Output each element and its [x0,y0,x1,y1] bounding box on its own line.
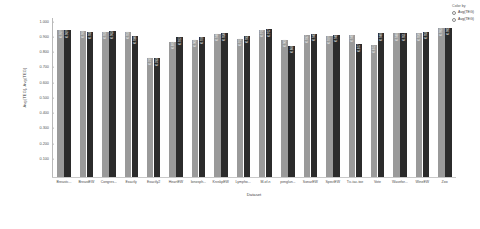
bar[interactable]: 0.950 [221,33,227,177]
bar-value-label: 0.963 [110,31,114,39]
bar-value-label: 0.937 [305,35,309,43]
bar[interactable]: 0.908 [281,40,287,178]
bar[interactable]: 0.922 [176,37,182,177]
bar-group[interactable]: 0.9290.941 [322,18,344,177]
bar[interactable]: 0.941 [333,35,339,178]
bar[interactable]: 0.971 [259,30,265,177]
x-tick-label: WineEW [411,180,433,184]
bar[interactable]: 0.963 [109,31,115,177]
bar-value-label: 0.941 [334,34,338,42]
bar-group[interactable]: 0.9710.977 [254,18,276,177]
bar-group[interactable]: 0.9500.958 [411,18,433,177]
bar[interactable]: 0.877 [356,44,362,177]
bar-groups: 0.9690.9690.9660.9580.9580.9630.9580.930… [53,18,456,177]
bar-group[interactable]: 0.9690.969 [53,18,75,177]
bar-value-label: 0.893 [171,42,175,50]
bar-group[interactable]: 0.9580.963 [98,18,120,177]
bar[interactable]: 0.985 [445,28,451,177]
bar-group[interactable]: 0.8720.948 [366,18,388,177]
bar-value-label: 0.933 [245,36,249,44]
y-axis-title: Avg(TEG), Avg(TEG) [4,0,44,175]
bar[interactable]: 0.913 [237,39,243,177]
legend-label-0: Avg(TEG) [458,11,474,15]
y-tick-label: 0.600 [39,81,52,85]
x-tick-label: Wavefor... [389,180,411,184]
y-tick-label: 0.200 [39,142,52,146]
bar[interactable]: 0.948 [393,33,399,177]
bar[interactable]: 0.872 [371,45,377,177]
bar[interactable]: 0.933 [244,36,250,177]
bar-value-label: 0.908 [283,39,287,47]
y-tick-label: 0.300 [39,126,52,130]
bar-group[interactable]: 0.9410.877 [344,18,366,177]
bar[interactable]: 0.929 [326,36,332,177]
bar-value-label: 0.866 [290,46,294,54]
bar[interactable]: 0.950 [416,33,422,177]
bar-value-label: 0.783 [155,58,159,66]
bar[interactable]: 0.966 [80,31,86,177]
bar[interactable]: 0.783 [154,58,160,177]
bar-value-label: 0.926 [200,37,204,45]
bar-group[interactable]: 0.9480.951 [389,18,411,177]
x-tick-label: KrvskpEW [210,180,232,184]
bar[interactable]: 0.948 [378,33,384,177]
bar-group[interactable]: 0.9080.926 [187,18,209,177]
bar-value-label: 0.929 [327,36,331,44]
bar[interactable]: 0.789 [147,58,153,178]
bar-value-label: 0.913 [238,39,242,47]
bar[interactable]: 0.893 [169,42,175,177]
bar-group[interactable]: 0.9460.950 [210,18,232,177]
bar-value-label: 0.930 [133,36,137,44]
bar-value-label: 0.985 [446,28,450,36]
x-tick-label: SonarEW [299,180,321,184]
bar-value-label: 0.945 [312,34,316,42]
x-tick-label: Exactly2 [142,180,164,184]
bar[interactable]: 0.945 [311,34,317,177]
y-tick-label: 0.100 [39,157,52,161]
bar[interactable]: 0.926 [199,37,205,177]
bar[interactable]: 0.937 [304,35,310,177]
bar-group[interactable]: 0.8930.922 [165,18,187,177]
x-axis-title: Dataset [52,192,456,197]
y-tick-label: 0.800 [39,50,52,54]
bar[interactable]: 0.866 [288,46,294,177]
bar[interactable]: 0.983 [438,28,444,177]
bar[interactable]: 0.930 [132,36,138,177]
bar-value-label: 0.969 [59,30,63,38]
bar[interactable]: 0.951 [400,33,406,177]
legend-label-1: Avg(TEG) [458,18,474,22]
x-axis-ticks: Breastc...BreastEWCongres...ExactlyExact… [53,180,456,184]
bar-value-label: 0.977 [267,29,271,37]
bar-group[interactable]: 0.9660.958 [75,18,97,177]
x-tick-label: HeartEW [165,180,187,184]
legend-swatch-icon [452,11,456,15]
bar-group[interactable]: 0.9130.933 [232,18,254,177]
bar[interactable]: 0.941 [349,35,355,178]
bar[interactable]: 0.969 [64,30,70,177]
bar[interactable]: 0.969 [57,30,63,177]
bar[interactable]: 0.958 [102,32,108,177]
bar-value-label: 0.941 [350,34,354,42]
bar[interactable]: 0.958 [87,32,93,177]
bar-group[interactable]: 0.7890.783 [142,18,164,177]
x-tick-label: Vote [366,180,388,184]
bar-group[interactable]: 0.9080.866 [277,18,299,177]
bar[interactable]: 0.977 [266,29,272,177]
bar-value-label: 0.983 [439,28,443,36]
bar-value-label: 0.872 [372,45,376,53]
bar[interactable]: 0.958 [125,32,131,177]
bar-value-label: 0.948 [379,33,383,41]
bar-group[interactable]: 0.9370.945 [299,18,321,177]
bar[interactable]: 0.946 [214,34,220,177]
y-tick-label: 1.000 [39,20,52,24]
x-tick-label: SpectEW [321,180,343,184]
bar-group[interactable]: 0.9830.985 [434,18,456,177]
chart-page: Color by Avg(TEG) Avg(TEG) Avg(TEG), Avg… [0,0,480,229]
bar[interactable]: 0.958 [423,32,429,177]
bar-value-label: 0.958 [424,32,428,40]
legend-item-0[interactable]: Avg(TEG) [452,11,474,15]
bar-value-label: 0.946 [215,34,219,42]
bar-group[interactable]: 0.9580.930 [120,18,142,177]
bar-value-label: 0.958 [126,32,130,40]
bar[interactable]: 0.908 [192,40,198,178]
